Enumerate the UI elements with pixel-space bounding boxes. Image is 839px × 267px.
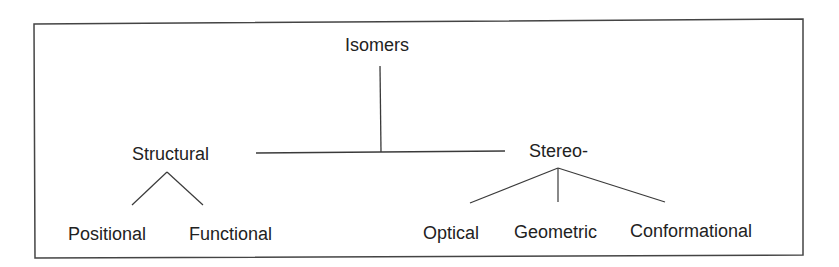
node-stereo: Stereo- bbox=[529, 141, 588, 161]
node-positional: Positional bbox=[68, 224, 146, 244]
node-isomers: Isomers bbox=[345, 35, 409, 55]
node-geometric: Geometric bbox=[514, 222, 597, 242]
node-functional: Functional bbox=[189, 224, 272, 244]
node-structural: Structural bbox=[132, 144, 209, 164]
root-connector bbox=[380, 66, 381, 152]
structural-right-branch bbox=[167, 172, 203, 205]
node-conformational: Conformational bbox=[630, 221, 752, 241]
structural-left-branch bbox=[132, 172, 167, 205]
stereo-right-branch bbox=[558, 168, 665, 202]
stereo-left-branch bbox=[470, 168, 558, 203]
node-optical: Optical bbox=[423, 223, 479, 243]
